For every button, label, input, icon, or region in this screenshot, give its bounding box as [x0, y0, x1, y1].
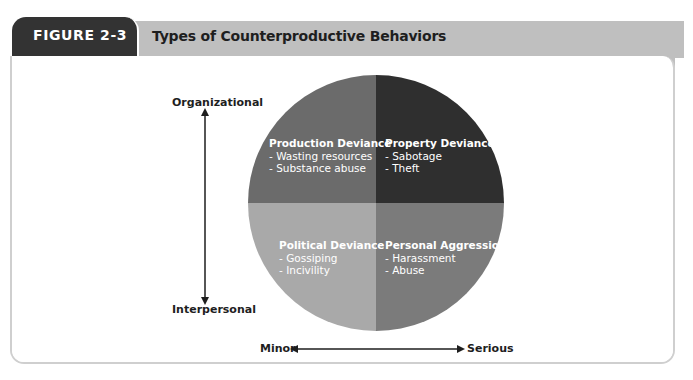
axis-label-organizational: Organizational	[172, 96, 263, 109]
political-deviance-item: - Incivility	[279, 264, 330, 276]
production-deviance-item: - Substance abuse	[269, 162, 366, 174]
axis-label-serious: Serious	[467, 342, 514, 355]
political-deviance-item: - Gossiping	[279, 252, 337, 264]
property-deviance-item: - Sabotage	[385, 150, 442, 162]
personal-aggression-item: - Abuse	[385, 264, 425, 276]
production-deviance-item: - Wasting resources	[269, 150, 372, 162]
personal-aggression-item: - Harassment	[385, 252, 456, 264]
production-deviance-title: Production Deviance	[269, 137, 391, 149]
political-deviance-title: Political Deviance	[279, 239, 384, 251]
personal-aggression-title: Personal Aggression	[385, 239, 507, 251]
quadrant-diagram: Production Deviance - Wasting resources …	[0, 0, 693, 380]
property-deviance-item: - Theft	[385, 162, 419, 174]
property-deviance-title: Property Deviance	[385, 137, 495, 149]
axis-label-interpersonal: Interpersonal	[172, 303, 256, 316]
axis-label-minor: Minor	[260, 342, 296, 355]
